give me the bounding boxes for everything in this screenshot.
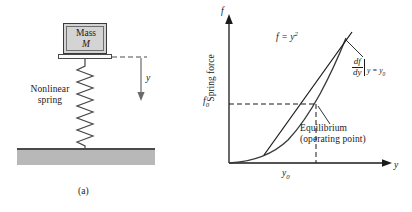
- curve-label-exponent: 2: [295, 30, 299, 37]
- axis-y-label: y: [394, 160, 398, 171]
- mass-symbol: M: [64, 39, 108, 49]
- displacement-label: y: [146, 73, 150, 84]
- panel-b-vector-layer: [200, 0, 412, 212]
- y-axis-arrow-head: [225, 14, 233, 24]
- curve-label: f = y2: [276, 30, 298, 43]
- derivative-denominator: dy: [352, 68, 363, 77]
- curve-label-text: f = y: [276, 32, 295, 42]
- mass-label: Mass: [64, 28, 108, 38]
- tick-label-y0: y0: [282, 168, 290, 181]
- displacement-arrow-head: [137, 92, 144, 101]
- equilibrium-line2: (operating point): [300, 134, 366, 144]
- axis-f-label: f: [221, 6, 224, 17]
- ground-support: [17, 148, 155, 165]
- spring-label: Nonlinear spring: [22, 84, 78, 106]
- panel-b-force-displacement-chart: f y Spring force f0 y0 f = y2 Equilibriu…: [200, 0, 412, 212]
- tick-label-f0: f0: [203, 96, 209, 109]
- caption-panel-a: (a): [78, 186, 89, 196]
- derivative-evaluation-bar: [364, 59, 365, 76]
- panel-a-spring-mass-diagram: Mass M Nonlinear spring y (a): [0, 0, 206, 212]
- figure-nonlinear-spring: Mass M Nonlinear spring y (a): [0, 0, 412, 212]
- equilibrium-line1: Equilibrium: [300, 123, 347, 133]
- x-axis-arrow-head: [382, 159, 392, 167]
- spring-label-line1: Nonlinear: [31, 84, 70, 94]
- spring-label-line2: spring: [38, 95, 62, 105]
- equilibrium-annotation: Equilibrium (operating point): [300, 123, 366, 145]
- derivative-annotation: df dy y = y0: [352, 57, 385, 78]
- derivative-fraction: df dy: [352, 57, 363, 78]
- derivative-leader-line: [346, 40, 363, 57]
- spring-coil: [77, 59, 93, 150]
- derivative-subscript: y = y0: [367, 66, 385, 78]
- equilibrium-leader-line: [318, 106, 330, 124]
- mass-block: Mass M: [63, 23, 107, 54]
- mass-platform: [58, 54, 112, 59]
- derivative-numerator: df: [353, 57, 362, 66]
